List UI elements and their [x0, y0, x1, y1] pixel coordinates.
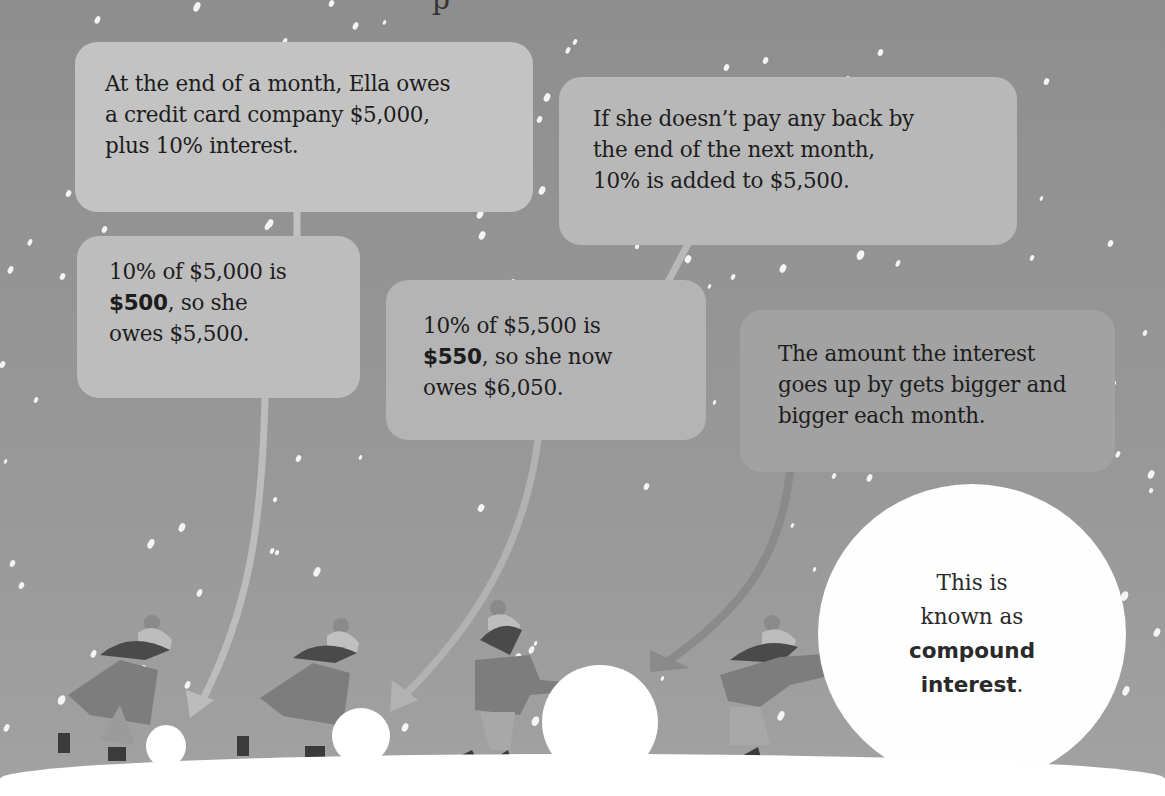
snow-ground — [0, 754, 1165, 796]
conclusion-text: known as — [921, 600, 1024, 634]
conclusion-term: compound — [909, 634, 1035, 668]
snowball-large-conclusion: This is known as compound interest. — [818, 484, 1126, 784]
conclusion-term: interest — [921, 672, 1017, 697]
conclusion-punct: . — [1016, 672, 1023, 697]
conclusion-text: This is — [937, 566, 1008, 600]
